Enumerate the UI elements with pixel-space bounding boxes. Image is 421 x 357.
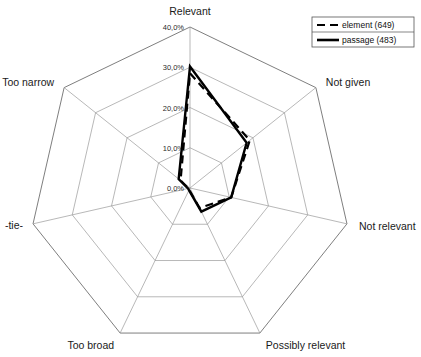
axis-label-too-broad: Too broad xyxy=(67,339,114,351)
tick-label-30: 30,0% xyxy=(163,63,185,72)
axis-label-relevant: Relevant xyxy=(169,5,211,17)
legend-label-element: element (649) xyxy=(342,20,395,30)
series-polygon-element xyxy=(181,73,250,208)
axis-spoke-5 xyxy=(33,188,190,224)
axis-label-possibly-relevant: Possibly relevant xyxy=(266,339,345,351)
radar-chart-container: 0,0%10,0%20,0%30,0%40,0% RelevantNot giv… xyxy=(0,0,421,357)
radar-chart: 0,0%10,0%20,0%30,0%40,0% RelevantNot giv… xyxy=(0,0,421,357)
series-polygon-passage xyxy=(179,66,247,211)
chart-legend[interactable]: element (649) passage (483) xyxy=(312,17,414,47)
axis-spoke-1 xyxy=(190,88,316,188)
axis-label-tie: -tie- xyxy=(5,219,24,231)
tick-label-0: 0,0% xyxy=(167,184,184,193)
tick-label-20: 20,0% xyxy=(163,104,185,113)
axis-category-labels: RelevantNot givenNot relevantPossibly re… xyxy=(2,5,415,351)
axis-label-too-narrow: Too narrow xyxy=(2,76,54,88)
axis-label-not-given: Not given xyxy=(326,76,371,88)
data-series-layer xyxy=(179,66,250,211)
legend-label-passage: passage (483) xyxy=(342,35,397,45)
axis-label-not-relevant: Not relevant xyxy=(359,220,416,232)
tick-label-40: 40,0% xyxy=(163,23,185,32)
radial-tick-labels: 0,0%10,0%20,0%30,0%40,0% xyxy=(163,23,185,193)
